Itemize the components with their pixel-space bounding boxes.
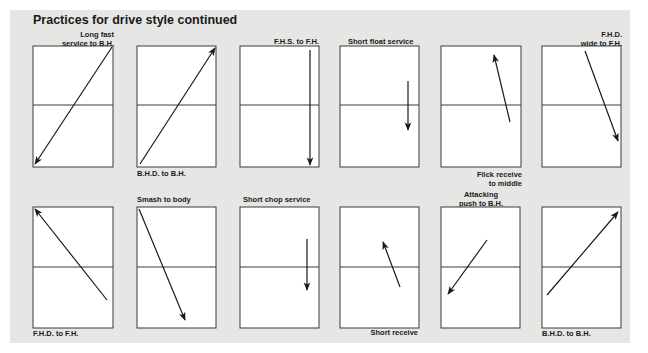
court-5 <box>441 46 521 167</box>
court-10 <box>340 207 419 328</box>
court-8 <box>137 207 216 328</box>
courts-svg <box>0 0 648 353</box>
court-4 <box>340 46 419 167</box>
court-12 <box>542 207 621 328</box>
court-7 <box>33 207 113 328</box>
court-6 <box>542 46 621 167</box>
court-3 <box>240 46 319 167</box>
court-11 <box>441 207 520 328</box>
